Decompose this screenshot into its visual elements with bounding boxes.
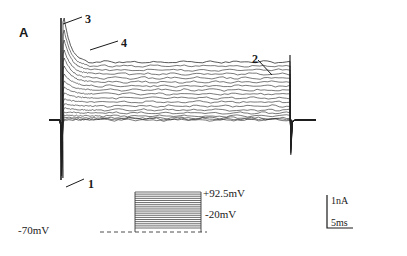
leader-line-4 [90,41,118,50]
max-step-voltage-label: +92.5mV [203,188,245,199]
current-scale-label: 1nA [331,196,348,206]
current-trace [49,119,316,138]
leader-line-1 [66,179,84,187]
leader-line-2 [258,60,272,75]
current-trace [49,118,316,138]
time-scale-label: 5ms [331,218,348,228]
marker-label-4: 4 [121,37,127,49]
min-step-voltage-label: -20mV [205,209,236,220]
leader-line-3 [63,17,82,24]
marker-label-1: 1 [88,178,94,190]
current-traces [49,18,316,180]
current-trace [49,81,316,162]
marker-label-3: 3 [85,13,91,25]
inward-transient-envelope [62,120,64,178]
current-trace [49,99,316,155]
marker-label-2: 2 [252,53,258,65]
holding-potential-label: -70mV [18,225,49,236]
electrophysiology-figure: A 1 2 3 4 -70mV +92.5mV -20mV 1nA 5ms [0,0,407,256]
current-trace [49,112,316,143]
panel-letter: A [19,26,28,39]
voltage-protocol-diagram [100,192,207,232]
